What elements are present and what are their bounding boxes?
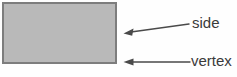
side-arrow-icon xyxy=(124,24,190,36)
vertex-arrow-icon xyxy=(124,59,191,66)
rectangle-shape xyxy=(3,3,116,63)
geometry-diagram: side vertex xyxy=(0,0,237,77)
side-label: side xyxy=(192,15,220,30)
vertex-label: vertex xyxy=(191,53,232,68)
